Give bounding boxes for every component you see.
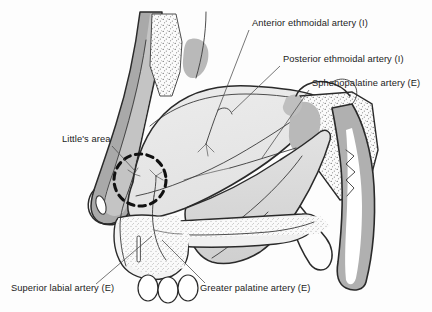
label-anterior-ethmoidal-artery: Anterior ethmoidal artery (I) (252, 18, 368, 28)
tooth-incisor-2 (158, 277, 178, 303)
incisive-canal (137, 236, 140, 262)
anatomy-figure: Anterior ethmoidal artery (I) Posterior … (0, 0, 432, 312)
label-littles-area: Little's area (62, 134, 111, 144)
label-posterior-ethmoidal-artery: Posterior ethmoidal artery (I) (283, 54, 404, 64)
label-greater-palatine-artery: Greater palatine artery (E) (200, 283, 311, 293)
label-superior-labial-artery: Superior labial artery (E) (11, 283, 114, 293)
tooth-incisor-1 (138, 275, 158, 301)
tooth-incisor-3 (178, 275, 198, 301)
nasal-septum-diagram: Anterior ethmoidal artery (I) Posterior … (0, 0, 432, 312)
label-sphenopalatine-artery: Sphenopalatine artery (E) (312, 78, 420, 88)
